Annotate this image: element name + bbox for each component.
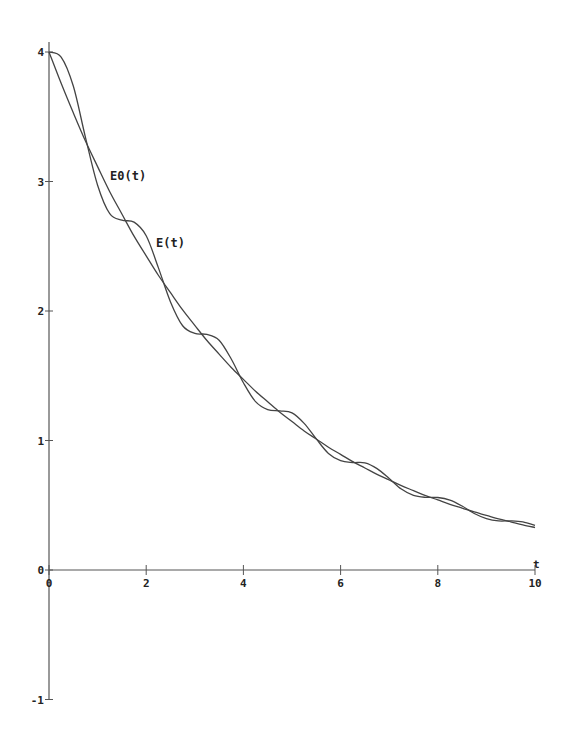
x-axis-label: t — [533, 558, 540, 571]
y-tick-label: -1 — [31, 694, 45, 707]
y-tick-label: 1 — [37, 435, 44, 448]
curves — [49, 52, 535, 528]
x-tick-label: 8 — [434, 577, 441, 590]
axes — [49, 42, 535, 700]
axis-ticks: 0246810-101234 — [31, 46, 542, 707]
y-tick-label: 0 — [37, 564, 44, 577]
chart-plot: 0246810-101234 t E0(t) E(t) — [0, 0, 565, 740]
curve-e0t — [49, 52, 535, 528]
curve-et — [49, 52, 535, 525]
x-tick-label: 4 — [240, 577, 247, 590]
x-tick-label: 6 — [337, 577, 344, 590]
x-tick-label: 10 — [528, 577, 541, 590]
y-tick-label: 2 — [37, 305, 44, 318]
curve-label-e0: E0(t) — [110, 169, 146, 183]
x-tick-label: 2 — [143, 577, 150, 590]
curve-label-e: E(t) — [156, 236, 185, 250]
x-tick-label: 0 — [46, 577, 53, 590]
y-tick-label: 3 — [37, 176, 44, 189]
y-tick-label: 4 — [37, 46, 44, 59]
